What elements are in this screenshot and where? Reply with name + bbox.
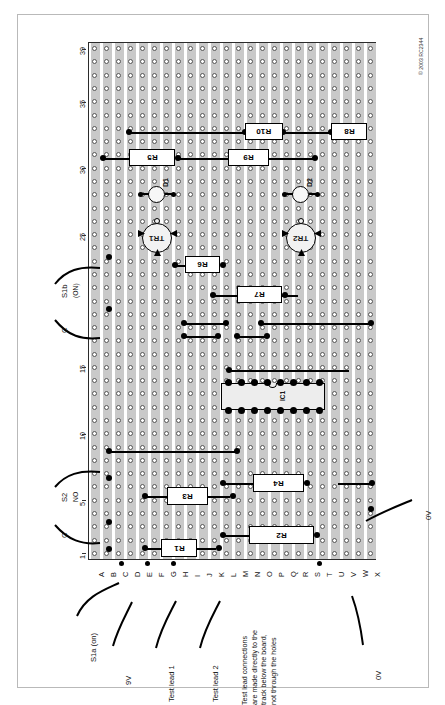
hole — [116, 325, 121, 330]
hole — [128, 498, 133, 503]
hole — [188, 166, 193, 171]
ic-pin — [290, 407, 297, 414]
hole — [140, 365, 145, 370]
hole — [320, 113, 325, 118]
hole — [212, 431, 217, 436]
wire-link — [283, 132, 331, 134]
hole — [368, 378, 373, 383]
hole — [236, 126, 241, 131]
hole — [332, 458, 337, 463]
hole — [116, 73, 121, 78]
hole — [368, 458, 373, 463]
row-letter-R: R — [301, 572, 310, 577]
solder-dot — [258, 320, 264, 326]
hole — [92, 152, 97, 157]
solder-dot — [119, 561, 124, 566]
hole — [368, 431, 373, 436]
hole — [296, 259, 301, 264]
hole — [188, 139, 193, 144]
wire-link — [129, 132, 245, 134]
hole — [320, 551, 325, 556]
hole — [308, 166, 313, 171]
hole — [344, 166, 349, 171]
hole — [296, 206, 301, 211]
hole — [200, 405, 205, 410]
hole — [368, 312, 373, 317]
hole — [332, 46, 337, 51]
hole — [272, 325, 277, 330]
hole — [212, 179, 217, 184]
ic-pin — [225, 407, 232, 414]
hole — [368, 46, 373, 51]
hole — [140, 166, 145, 171]
solder-dot — [314, 532, 320, 538]
wire-link — [223, 535, 249, 537]
hole — [116, 312, 121, 317]
label-s1b-on: (ON) — [72, 283, 79, 298]
row-letter-O: O — [265, 571, 274, 577]
ic-pin — [225, 379, 232, 386]
hole — [344, 445, 349, 450]
ic-pin — [251, 407, 258, 414]
hole — [128, 46, 133, 51]
component-R7: R7 — [237, 286, 282, 303]
solder-dot — [226, 367, 232, 373]
hole — [248, 219, 253, 224]
hole — [236, 192, 241, 197]
ic-pin — [264, 407, 271, 414]
hole — [212, 99, 217, 104]
component-R9: R9 — [228, 149, 269, 166]
hole — [248, 259, 253, 264]
hole — [212, 206, 217, 211]
hole — [272, 352, 277, 357]
hole — [284, 259, 289, 264]
hole — [308, 511, 313, 516]
hole — [332, 325, 337, 330]
hole — [152, 365, 157, 370]
hole — [104, 498, 109, 503]
hole — [272, 338, 277, 343]
hole — [332, 245, 337, 250]
hole — [140, 299, 145, 304]
hole — [320, 458, 325, 463]
hole — [188, 352, 193, 357]
solder-dot — [223, 320, 229, 326]
solder-dot — [106, 475, 112, 481]
hole — [344, 99, 349, 104]
row-letter-T: T — [325, 572, 334, 577]
row-letter-I: I — [193, 575, 202, 577]
hole — [152, 471, 157, 476]
wire-link — [145, 496, 167, 498]
hole — [296, 86, 301, 91]
hole — [284, 325, 289, 330]
hole — [140, 405, 145, 410]
hole — [176, 179, 181, 184]
hole — [104, 245, 109, 250]
hole — [368, 86, 373, 91]
hole — [284, 113, 289, 118]
hole — [200, 445, 205, 450]
hole — [356, 338, 361, 343]
row-letter-J: J — [205, 573, 214, 577]
hole — [104, 431, 109, 436]
hole — [296, 352, 301, 357]
hole — [272, 192, 277, 197]
hole — [200, 365, 205, 370]
hole — [260, 245, 265, 250]
solder-dot — [215, 333, 221, 339]
ic-pin — [316, 379, 323, 386]
hole — [308, 99, 313, 104]
hole — [152, 126, 157, 131]
hole — [224, 299, 229, 304]
solder-dot — [100, 155, 106, 161]
hole — [260, 498, 265, 503]
hole — [176, 325, 181, 330]
hole — [236, 352, 241, 357]
hole — [332, 524, 337, 529]
hole — [212, 524, 217, 529]
ic-pin — [251, 379, 258, 386]
hole — [224, 445, 229, 450]
hole — [308, 325, 313, 330]
hole — [92, 166, 97, 171]
hole — [356, 524, 361, 529]
